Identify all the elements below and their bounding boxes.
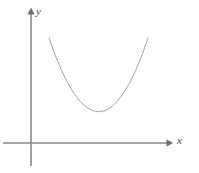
y-axis-arrowhead-icon — [27, 8, 34, 15]
plot-canvas — [0, 0, 199, 173]
x-axis-arrowhead-icon — [167, 139, 174, 147]
x-axis-label: x — [177, 135, 182, 146]
y-axis-label: y — [36, 6, 41, 17]
parabola-coordinate-plot: —— ——— —— ——— ——— ———— —— ——— ———— ——— —… — [0, 0, 199, 173]
parabola-curve — [49, 38, 148, 112]
